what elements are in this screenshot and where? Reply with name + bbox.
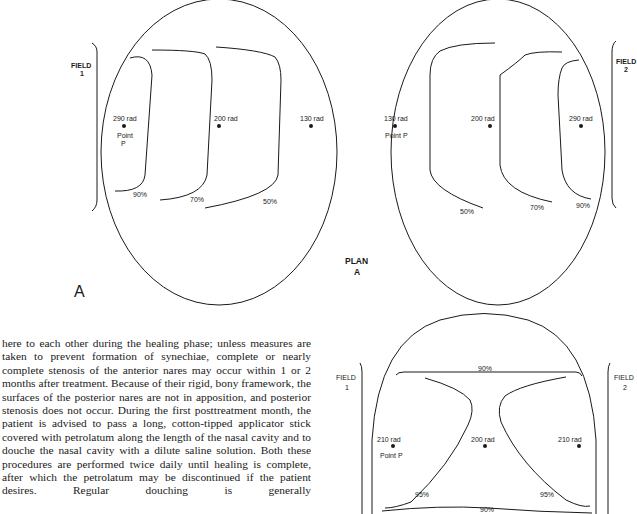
field2-label: FIELD [616, 58, 636, 65]
body-text: here to each other during the healing ph… [2, 337, 311, 498]
dose-label-210-right-bottom: 210 rad [558, 436, 582, 443]
dose-point-130-right [393, 124, 397, 128]
isodose-label-90-left: 90% [133, 191, 147, 198]
field2-bracket [612, 41, 616, 208]
dose-point-200-bottom [483, 444, 487, 448]
bottom-field2-label: FIELD [614, 374, 634, 381]
point-p-label-left-1: Point [117, 132, 133, 139]
dose-point-290-right [579, 124, 583, 128]
isodose-label-95-right: 95% [540, 491, 554, 498]
dose-label-200-bottom: 200 rad [471, 436, 495, 443]
dose-point-210-right-bottom [577, 444, 581, 448]
isodose-label-70-left: 70% [190, 196, 204, 203]
field2-number: 2 [624, 66, 628, 73]
dose-label-290-left: 290 rad [113, 115, 137, 122]
dose-point-210-left-bottom [391, 444, 395, 448]
field1-label: FIELD [71, 62, 91, 69]
dose-point-130-left [309, 124, 313, 128]
isodose-label-90-top: 90% [478, 365, 492, 372]
isodose-95-left [385, 378, 472, 508]
bottom-field2-bracket [608, 363, 610, 514]
isodose-label-50-right: 50% [460, 208, 474, 215]
dose-label-130-left: 130 rad [300, 115, 324, 122]
plan-label-line2: A [354, 267, 360, 277]
dose-label-210-left-bottom: 210 rad [377, 436, 401, 443]
isodose-label-90-right: 90% [576, 202, 590, 209]
isodose-label-50-left: 50% [263, 198, 277, 205]
field1-number: 1 [80, 70, 84, 77]
bottom-field2-number: 2 [623, 384, 627, 391]
dose-point-200-right [488, 124, 492, 128]
isodose-label-90-bottom: 90% [480, 506, 494, 513]
bottom-head-outline [372, 314, 596, 514]
dose-label-290-right: 290 rad [569, 115, 593, 122]
dose-point-290-left [122, 124, 126, 128]
isodose-70-left [152, 50, 212, 200]
dose-point-200-left [217, 124, 221, 128]
dose-label-130-right: 130 rad [384, 115, 408, 122]
bottom-field1-bracket [360, 363, 362, 514]
bottom-field1-label: FIELD [336, 374, 356, 381]
isodose-70-right [500, 52, 562, 202]
right-head-outline [391, 0, 605, 305]
isodose-label-70-right: 70% [530, 204, 544, 211]
dose-label-200-left: 200 rad [214, 115, 238, 122]
isodose-50-right [430, 43, 495, 208]
isodose-90-left [115, 57, 152, 191]
point-p-label-right: Point P [385, 132, 408, 139]
point-p-label-bottom: Point P [380, 452, 403, 459]
isodose-90-right [558, 60, 591, 199]
left-head-outline [101, 0, 337, 305]
isodose-label-95-left: 95% [415, 491, 429, 498]
dose-label-200-right: 200 rad [471, 115, 495, 122]
isodose-50-left [205, 47, 281, 208]
field1-bracket [92, 43, 97, 211]
panel-label: A [74, 283, 85, 300]
body-paragraph: here to each other during the healing ph… [2, 337, 311, 498]
point-p-label-left-2: P [121, 140, 126, 147]
bottom-field1-number: 1 [345, 384, 349, 391]
plan-label-line1: PLAN [345, 256, 368, 266]
isodose-90-top [396, 372, 582, 376]
